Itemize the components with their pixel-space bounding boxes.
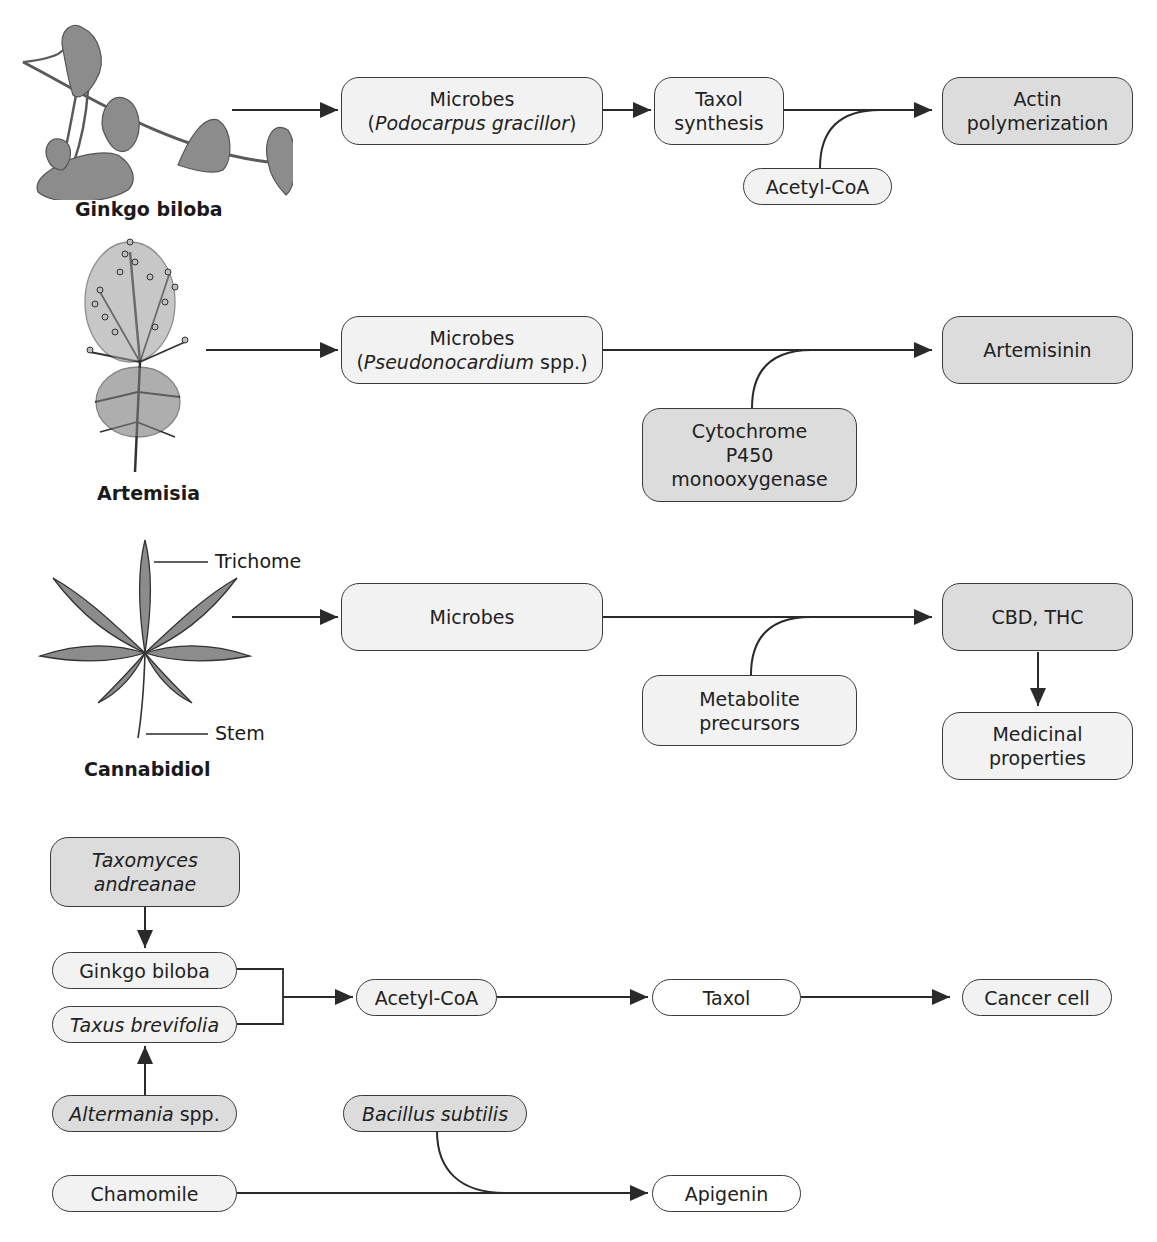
node-line: monooxygenase [671,467,827,491]
node-line: Taxomyces [92,848,198,872]
actin-polymerization-node: Actin polymerization [942,77,1133,145]
apigenin-node: Apigenin [652,1175,801,1212]
node-line: (Pseudonocardium spp.) [356,350,587,374]
taxomyces-andreanae-node: Taxomyces andreanae [50,837,240,907]
cbd-thc-node: CBD, THC [942,583,1133,651]
curve-p450-join [752,350,812,408]
node-line: P450 [726,443,774,467]
node-line: CBD, THC [991,605,1083,629]
acetyl-coa-cofactor-node: Acetyl-CoA [743,168,892,205]
microbes-podocarpus-node: Microbes (Podocarpus gracillor) [341,77,603,145]
ginkgo-label: Ginkgo biloba [75,198,223,220]
node-line: Ginkgo biloba [79,959,210,983]
cannabidiol-label: Cannabidiol [84,758,210,780]
node-line: andreanae [94,872,196,896]
node-line: Bacillus subtilis [362,1102,508,1126]
node-line: Taxol [703,986,751,1010]
node-line: precursors [699,711,800,735]
node-line: polymerization [967,111,1109,135]
curve-bacillus-join [437,1131,505,1193]
curve-acetylcoa-join [820,110,880,168]
node-line: Apigenin [685,1182,768,1206]
node-line: Microbes [430,326,515,350]
node-line: Altermania spp. [69,1102,219,1126]
node-line: Taxol [695,87,743,111]
ginkgo-biloba-host-node: Ginkgo biloba [52,952,237,989]
acetyl-coa-node: Acetyl-CoA [356,979,497,1016]
artemisinin-node: Artemisinin [942,316,1133,384]
bacillus-subtilis-node: Bacillus subtilis [343,1095,527,1132]
artemisia-plant-illustration [60,232,200,477]
cytochrome-p450-node: Cytochrome P450 monooxygenase [642,408,857,502]
node-line: Cytochrome [692,419,807,443]
node-line: properties [989,746,1086,770]
curve-precursors-join [751,617,811,675]
microbes-node: Microbes [341,583,603,651]
node-line: Microbes [430,605,515,629]
node-line: Medicinal [992,722,1082,746]
bracket-hosts [237,969,283,1024]
altermania-node: Altermania spp. [52,1095,237,1132]
node-line: Microbes [430,87,515,111]
taxol-synthesis-node: Taxol synthesis [654,77,784,145]
node-line: Chamomile [91,1182,199,1206]
stem-callout: Stem [215,722,265,744]
node-line: Metabolite [699,687,800,711]
node-line: (Podocarpus gracillor) [368,111,577,135]
node-line: Artemisinin [983,338,1091,362]
chamomile-node: Chamomile [52,1175,237,1212]
node-line: Taxus brevifolia [70,1013,219,1037]
node-line: Actin [1014,87,1062,111]
medicinal-properties-node: Medicinal properties [942,712,1133,780]
node-line: Acetyl-CoA [766,175,870,199]
metabolite-precursors-node: Metabolite precursors [642,675,857,746]
node-line: synthesis [674,111,763,135]
trichome-callout: Trichome [215,550,301,572]
taxus-brevifolia-host-node: Taxus brevifolia [52,1006,237,1043]
microbes-pseudonocardium-node: Microbes (Pseudonocardium spp.) [341,316,603,384]
node-line: Cancer cell [984,986,1090,1010]
cancer-cell-node: Cancer cell [962,979,1112,1016]
taxol-node: Taxol [652,979,801,1016]
node-line: Acetyl-CoA [375,986,479,1010]
ginkgo-leaf-illustration [18,20,293,200]
artemisia-label: Artemisia [97,482,200,504]
